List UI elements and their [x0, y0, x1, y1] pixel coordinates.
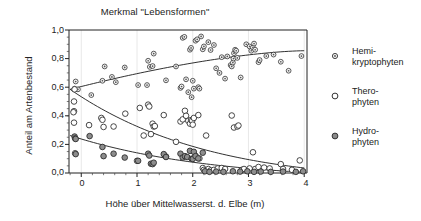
- legend-item-hydrophyten[interactable]: Hydro- phyten: [330, 128, 421, 168]
- filled-circle-icon: [330, 131, 340, 141]
- legend-label-line2: kryptophyten: [352, 57, 421, 68]
- legend-item-hemikryptophyten[interactable]: Hemi- kryptophyten: [330, 48, 421, 88]
- legend-label-line2: phyten: [352, 137, 421, 148]
- chart-figure: Merkmal "Lebensformen" Anteil am Artenbe…: [0, 0, 421, 221]
- legend-label-line1: Thero-: [352, 86, 421, 97]
- legend-label-line1: Hemi-: [352, 46, 421, 57]
- legend-label-line1: Hydro-: [352, 126, 421, 137]
- legend-item-therophyten[interactable]: Thero- phyten: [330, 88, 421, 128]
- small-diamond-icon: [330, 51, 340, 61]
- legend-label-therophyten: Thero- phyten: [352, 86, 421, 108]
- data-points: [71, 34, 306, 175]
- legend-label-hemikryptophyten: Hemi- kryptophyten: [352, 46, 421, 68]
- legend-label-line2: phyten: [352, 97, 421, 108]
- chart-legend: Hemi- kryptophyten Thero- phyten Hydro- …: [330, 48, 421, 168]
- legend-label-hydrophyten: Hydro- phyten: [352, 126, 421, 148]
- open-circle-icon: [330, 91, 340, 101]
